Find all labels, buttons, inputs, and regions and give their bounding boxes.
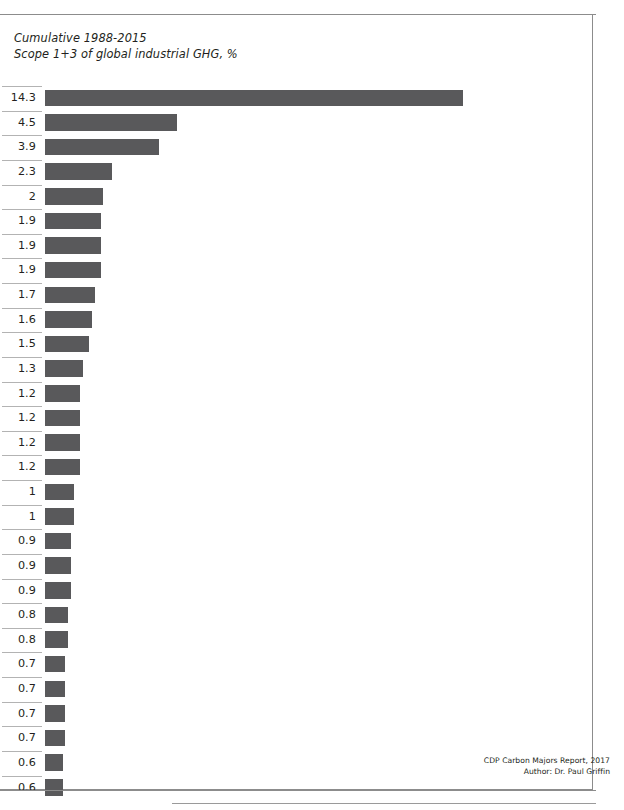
- row-separator-rule: [2, 332, 42, 333]
- bar: [45, 360, 83, 377]
- row-separator-rule: [2, 431, 42, 432]
- bar-value-label: 0.9: [0, 559, 36, 572]
- bar: [45, 754, 63, 771]
- bar: [45, 90, 463, 107]
- bar-value-label: 1.2: [0, 460, 36, 473]
- bar: [45, 656, 65, 673]
- bar-row: 0.7: [0, 652, 593, 677]
- row-separator-rule: [2, 185, 42, 186]
- bar: [45, 557, 71, 574]
- bar-value-label: 14.3: [0, 91, 36, 104]
- bar: [45, 213, 101, 230]
- bar-value-label: 1.6: [0, 313, 36, 326]
- bar-value-label: 0.6: [0, 756, 36, 769]
- bar: [45, 631, 68, 648]
- row-separator-rule: [2, 258, 42, 259]
- bar-row: 0.7: [0, 702, 593, 727]
- chart-heading: Cumulative 1988-2015 Scope 1+3 of global…: [14, 30, 238, 62]
- bar: [45, 681, 65, 698]
- bar-row: 0.7: [0, 726, 593, 751]
- bar-row: 0.7: [0, 677, 593, 702]
- bar-value-label: 1: [0, 485, 36, 498]
- bar: [45, 188, 103, 205]
- bar-row: 1.2: [0, 431, 593, 456]
- bar: [45, 508, 74, 525]
- bar-row: 0.9: [0, 579, 593, 604]
- bar-value-label: 1: [0, 510, 36, 523]
- row-separator-rule: [2, 234, 42, 235]
- bar-value-label: 1.2: [0, 436, 36, 449]
- row-separator-rule: [2, 357, 42, 358]
- bar: [45, 385, 80, 402]
- row-separator-rule: [2, 455, 42, 456]
- row-separator-rule: [2, 776, 42, 777]
- bar: [45, 779, 63, 796]
- bar-row: 1.9: [0, 258, 593, 283]
- row-separator-rule: [2, 308, 42, 309]
- bar-row: 1.9: [0, 234, 593, 259]
- row-separator-rule: [2, 726, 42, 727]
- bar-chart-plot-area: 14.34.53.92.321.91.91.91.71.61.51.31.21.…: [0, 86, 593, 800]
- footer-source: CDP Carbon Majors Report, 2017: [484, 755, 610, 766]
- bar-value-label: 0.9: [0, 534, 36, 547]
- bar-value-label: 0.7: [0, 731, 36, 744]
- row-separator-rule: [2, 111, 42, 112]
- bar-value-label: 0.8: [0, 633, 36, 646]
- row-separator-rule: [2, 529, 42, 530]
- bar: [45, 139, 159, 156]
- chart-subtitle: Scope 1+3 of global industrial GHG, %: [14, 46, 238, 62]
- bar-value-label: 1.5: [0, 337, 36, 350]
- bar-value-label: 4.5: [0, 116, 36, 129]
- row-separator-rule: [2, 702, 42, 703]
- bar-value-label: 2.3: [0, 165, 36, 178]
- row-separator-rule: [2, 603, 42, 604]
- bar: [45, 582, 71, 599]
- bar-row: 0.9: [0, 529, 593, 554]
- bar-row: 1: [0, 505, 593, 530]
- bar-value-label: 0.7: [0, 657, 36, 670]
- footer-author: Author: Dr. Paul Griffin: [484, 766, 610, 777]
- bar: [45, 262, 101, 279]
- bar-value-label: 1.9: [0, 263, 36, 276]
- row-separator-rule: [2, 628, 42, 629]
- bar-row: 0.9: [0, 554, 593, 579]
- bar: [45, 533, 71, 550]
- bar-value-label: 1.7: [0, 288, 36, 301]
- bar-value-label: 0.9: [0, 584, 36, 597]
- bar-row: 1.9: [0, 209, 593, 234]
- bar-row: 0.6: [0, 776, 593, 801]
- bar-value-label: 0.7: [0, 682, 36, 695]
- bar-value-label: 3.9: [0, 140, 36, 153]
- bar: [45, 114, 177, 131]
- bar-row: 0.8: [0, 603, 593, 628]
- page-bottom-rule: [0, 790, 596, 791]
- bar: [45, 705, 65, 722]
- bar-value-label: 1.9: [0, 214, 36, 227]
- bar-row: 1.2: [0, 382, 593, 407]
- row-separator-rule: [2, 677, 42, 678]
- bar-row: 2.3: [0, 160, 593, 185]
- row-separator-rule: [2, 86, 42, 87]
- bar-value-label: 1.9: [0, 239, 36, 252]
- bar-row: 3.9: [0, 135, 593, 160]
- bar-value-label: 1.2: [0, 411, 36, 424]
- bar-row: 1.2: [0, 455, 593, 480]
- row-separator-rule: [2, 135, 42, 136]
- row-separator-rule: [2, 579, 42, 580]
- bar: [45, 311, 92, 328]
- bar: [45, 730, 65, 747]
- row-separator-rule: [2, 406, 42, 407]
- bar: [45, 459, 80, 476]
- bar: [45, 163, 112, 180]
- bar: [45, 336, 89, 353]
- bar-row: 14.3: [0, 86, 593, 111]
- row-separator-rule: [2, 382, 42, 383]
- bar-row: 4.5: [0, 111, 593, 136]
- bar-row: 1.5: [0, 332, 593, 357]
- chart-title: Cumulative 1988-2015: [14, 30, 238, 46]
- bar-value-label: 1.2: [0, 387, 36, 400]
- bar: [45, 607, 68, 624]
- row-separator-rule: [2, 505, 42, 506]
- bar-value-label: 0.7: [0, 707, 36, 720]
- bar-row: 1: [0, 480, 593, 505]
